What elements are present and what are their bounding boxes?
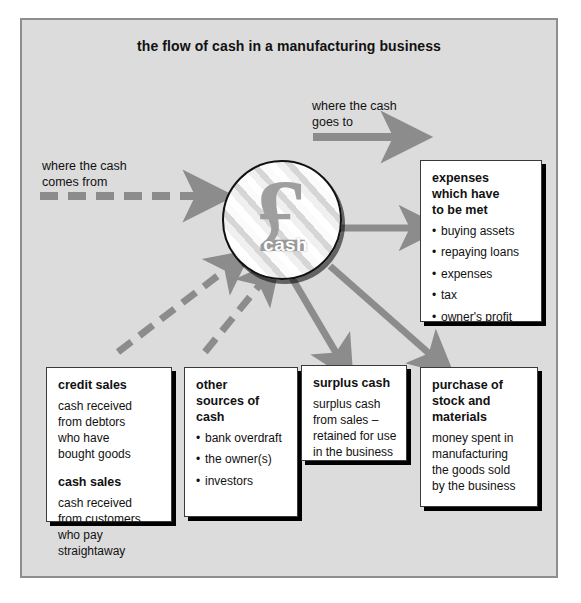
box-purchase-stock-body: money spent in manufacturing the goods s… xyxy=(432,431,528,495)
box-credit-sales-heading: credit sales xyxy=(58,377,162,393)
spacer xyxy=(58,463,162,474)
box-expenses-list: buying assets repaying loans expenses ta… xyxy=(432,224,532,324)
diagram-canvas: the flow of cash in a manufacturing busi… xyxy=(0,0,581,603)
list-item: owner's profit xyxy=(432,310,532,324)
box-purchase-stock-heading: purchase of stock and materials xyxy=(432,377,528,425)
cash-circle: £ cash xyxy=(222,160,342,280)
box-expenses-heading: expenses which have to be met xyxy=(432,170,532,218)
box-credit-sales: credit sales cash received from debtors … xyxy=(46,367,172,522)
legend-inflow-label: where the cash comes from xyxy=(42,158,127,190)
box-other-sources: other sources of cash bank overdraft the… xyxy=(184,367,298,517)
box-cash-sales-heading: cash sales xyxy=(58,474,162,490)
box-surplus-cash-heading: surplus cash xyxy=(313,375,397,391)
list-item: the owner(s) xyxy=(196,452,288,466)
box-purchase-stock: purchase of stock and materials money sp… xyxy=(420,367,538,507)
list-item: bank overdraft xyxy=(196,431,288,445)
box-surplus-cash: surplus cash surplus cash from sales – r… xyxy=(301,365,407,461)
list-item: repaying loans xyxy=(432,245,532,259)
box-expenses: expenses which have to be met buying ass… xyxy=(420,160,542,322)
list-item: expenses xyxy=(432,267,532,281)
box-other-sources-list: bank overdraft the owner(s) investors xyxy=(196,431,288,488)
page-title: the flow of cash in a manufacturing busi… xyxy=(20,38,558,54)
box-other-sources-heading: other sources of cash xyxy=(196,377,288,425)
box-credit-sales-body: cash received from debtors who have boug… xyxy=(58,399,162,463)
list-item: tax xyxy=(432,288,532,302)
cash-label: cash xyxy=(263,234,308,256)
box-cash-sales-body: cash received from customers who pay str… xyxy=(58,496,162,560)
list-item: buying assets xyxy=(432,224,532,238)
box-surplus-cash-body: surplus cash from sales – retained for u… xyxy=(313,397,397,461)
list-item: investors xyxy=(196,474,288,488)
legend-outflow-label: where the cash goes to xyxy=(312,98,397,130)
